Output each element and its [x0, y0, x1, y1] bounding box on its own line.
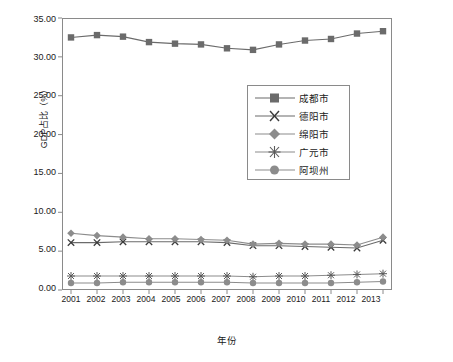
legend-label: 德阳市 — [299, 109, 329, 123]
chart-container: GDP占比（%） 年份 35.00 30.00 25.00 20.00 15.0… — [0, 0, 453, 362]
series-阿坝州 — [68, 278, 386, 286]
series-绵阳市 — [67, 229, 387, 248]
legend-item-mianyang[interactable]: 绵阳市 — [248, 125, 349, 143]
star-marker-icon — [253, 144, 297, 160]
diamond-marker-icon — [253, 126, 297, 142]
legend-label: 广元市 — [299, 145, 329, 159]
legend-label: 阿坝州 — [299, 163, 329, 177]
legend-label: 成都市 — [299, 91, 329, 105]
legend: 成都市 德阳市 绵阳市 广元市 阿坝州 — [247, 85, 350, 180]
circle-marker-icon — [253, 162, 297, 178]
square-marker-icon — [253, 90, 297, 106]
legend-item-chengdu[interactable]: 成都市 — [248, 89, 349, 107]
series-成都市 — [68, 28, 386, 53]
legend-item-aba[interactable]: 阿坝州 — [248, 161, 349, 179]
legend-label: 绵阳市 — [299, 127, 329, 141]
legend-item-guangyuan[interactable]: 广元市 — [248, 143, 349, 161]
legend-item-deyang[interactable]: 德阳市 — [248, 107, 349, 125]
series-layer — [0, 0, 453, 362]
cross-marker-icon — [253, 108, 297, 124]
